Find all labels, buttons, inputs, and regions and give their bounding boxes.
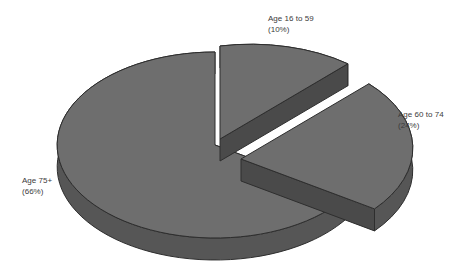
pie-label-age-16-59-percent: (10%) (268, 25, 314, 36)
pie-chart-graphic (0, 0, 467, 270)
pie-label-age-60-74-percent: (24%) (398, 121, 444, 132)
pie-label-age-75plus-percent: (66%) (22, 187, 52, 198)
pie-label-age-60-74: Age 60 to 74 (24%) (398, 110, 444, 131)
pie-chart: Age 16 to 59 (10%) Age 60 to 74 (24%) Ag… (0, 0, 467, 270)
pie-label-age-16-59: Age 16 to 59 (10%) (268, 14, 314, 35)
pie-label-age-60-74-name: Age 60 to 74 (398, 110, 444, 119)
pie-label-age-75plus-name: Age 75+ (22, 176, 52, 185)
pie-label-age-16-59-name: Age 16 to 59 (268, 14, 314, 23)
pie-label-age-75plus: Age 75+ (66%) (22, 176, 52, 197)
